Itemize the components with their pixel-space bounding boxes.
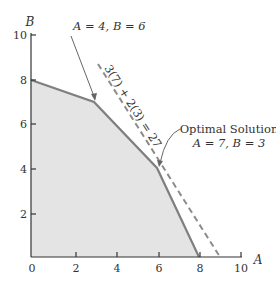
corner-arrow (71, 36, 95, 99)
optimal-arrow (160, 129, 180, 163)
y-tick-label: 2 (20, 208, 27, 221)
y-tick-label: 4 (20, 163, 27, 176)
feasible-region (31, 80, 199, 257)
x-tick-label: 10 (234, 262, 248, 275)
y-tick-label: 6 (20, 118, 27, 131)
x-tick-label: 4 (114, 262, 121, 275)
corner-annotation: A = 4, B = 6 (72, 19, 146, 33)
corner-arrowhead-icon (91, 93, 97, 101)
x-tick-label: 8 (197, 262, 204, 275)
y-tick-label: 8 (20, 74, 27, 87)
x-tick-label: 0 (29, 262, 36, 275)
x-axis-title: A (253, 253, 263, 267)
y-axis-title: B (25, 15, 35, 29)
optimal-solution-title: Optimal Solution (180, 122, 276, 136)
y-tick-label: 10 (13, 29, 27, 42)
optimal-solution-values: A = 7, B = 3 (192, 136, 266, 150)
x-tick-label: 6 (156, 262, 163, 275)
x-tick-label: 2 (73, 262, 80, 275)
linear-programming-chart: 10 8 6 4 2 0 2 4 6 8 10 B A A = 4, B = 6… (0, 0, 276, 284)
